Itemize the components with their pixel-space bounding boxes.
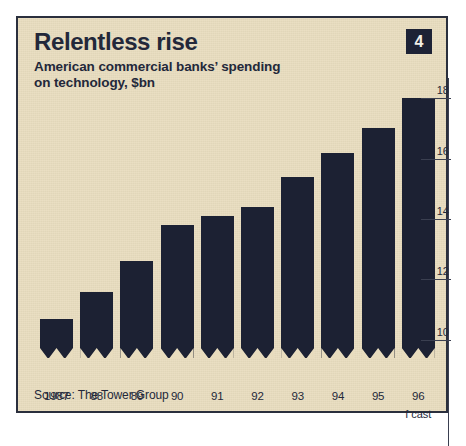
y-tick-12: 12 (421, 279, 451, 280)
bar-rect (201, 216, 234, 358)
y-tick-18: 18 (421, 98, 451, 99)
x-tick-label-94: 94 (316, 390, 360, 402)
bar-rect (241, 207, 274, 358)
x-tick-label-92: 92 (236, 390, 280, 402)
bar-rect (80, 292, 113, 358)
bar-notch (241, 348, 274, 359)
bar-rect (120, 261, 153, 358)
y-tick-16: 16 (421, 159, 451, 160)
y-tick-label-16: 16 (437, 145, 449, 157)
bar-notch (402, 348, 435, 359)
chart-figure: Relentless rise American commercial bank… (16, 16, 448, 413)
y-tick-14: 14 (421, 219, 451, 220)
page-title: Relentless rise (34, 30, 197, 54)
y-axis: 1012141618 (448, 78, 449, 446)
bar-notch (201, 348, 234, 359)
bar-rect (161, 225, 194, 358)
y-tick-label-18: 18 (437, 84, 449, 96)
bar-notch (281, 348, 314, 359)
x-tick-label-95: 95 (356, 390, 400, 402)
bar-rect (402, 98, 435, 358)
bar-rect (281, 177, 314, 358)
bar-rect (321, 153, 354, 358)
bar-notch (161, 348, 194, 359)
bar-notch (80, 348, 113, 359)
bar-notch (362, 348, 395, 359)
x-tick-annotation-96: f cast (396, 408, 440, 420)
y-tick-label-10: 10 (437, 326, 449, 338)
x-tick-label-93: 93 (276, 390, 320, 402)
x-tick-label-96: 96 (396, 390, 440, 402)
bar-notch (40, 348, 73, 359)
source-note: Source: The Tower Group (34, 388, 169, 402)
bar-rect (362, 128, 395, 358)
bar-notch (120, 348, 153, 359)
bar-rect (40, 319, 73, 358)
x-tick-label-91: 91 (195, 390, 239, 402)
chart-number-badge: 4 (406, 29, 432, 54)
plot-area: 1987888990919293949596f cast 1012141618 (30, 78, 436, 388)
y-tick-label-12: 12 (437, 265, 449, 277)
y-tick-label-14: 14 (437, 205, 449, 217)
y-tick-10: 10 (421, 340, 451, 341)
bar-notch (321, 348, 354, 359)
